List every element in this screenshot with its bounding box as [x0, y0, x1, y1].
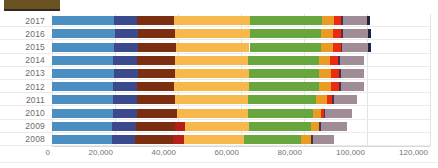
bar-segment[interactable]	[138, 43, 176, 52]
row-separator	[0, 119, 430, 120]
bar-segment[interactable]	[112, 135, 135, 144]
bar-segment[interactable]	[301, 135, 311, 144]
bar-segment[interactable]	[316, 95, 327, 104]
bar-segment[interactable]	[177, 109, 248, 118]
bar-segment[interactable]	[112, 122, 136, 131]
bar-segment[interactable]	[342, 43, 368, 52]
bar-segment[interactable]	[244, 135, 301, 144]
bar-segment[interactable]	[114, 69, 138, 78]
bar-segment[interactable]	[311, 122, 319, 131]
bar-segment[interactable]	[113, 95, 137, 104]
bar-row[interactable]	[52, 109, 430, 118]
stacked-bar-chart: 2017201620152014201320122011201020092008…	[0, 0, 438, 168]
bar-segment[interactable]	[248, 95, 316, 104]
x-axis-labels: 020,00040,00060,00080,000100,000120,000	[0, 148, 438, 162]
bar-segment[interactable]	[52, 109, 113, 118]
bar-segment[interactable]	[52, 135, 112, 144]
bar-row[interactable]	[52, 56, 430, 65]
x-gridline	[430, 14, 431, 146]
bar-segment[interactable]	[313, 109, 321, 118]
bar-segment[interactable]	[113, 82, 136, 91]
plot-area	[52, 14, 430, 146]
bar-segment[interactable]	[135, 135, 173, 144]
bar-segment[interactable]	[114, 16, 137, 25]
bar-row[interactable]	[52, 122, 430, 131]
bar-row[interactable]	[52, 16, 430, 25]
bar-segment[interactable]	[250, 16, 322, 25]
bar-segment[interactable]	[137, 95, 175, 104]
bar-segment[interactable]	[175, 69, 248, 78]
bar-segment[interactable]	[250, 43, 321, 52]
bar-segment[interactable]	[52, 56, 113, 65]
bar-segment[interactable]	[340, 56, 364, 65]
bar-segment[interactable]	[137, 82, 174, 91]
x-axis-line	[52, 146, 430, 147]
bar-segment[interactable]	[333, 29, 341, 38]
bar-segment[interactable]	[113, 109, 137, 118]
bar-segment[interactable]	[319, 82, 331, 91]
bar-segment[interactable]	[321, 122, 347, 131]
bar-segment[interactable]	[176, 43, 250, 52]
bar-row[interactable]	[52, 43, 430, 52]
bar-segment[interactable]	[137, 16, 174, 25]
bar-segment[interactable]	[341, 69, 364, 78]
y-tick-label: 2014	[1, 55, 45, 65]
bar-row[interactable]	[52, 82, 430, 91]
bar-segment[interactable]	[52, 43, 114, 52]
bar-segment[interactable]	[113, 56, 137, 65]
bar-segment[interactable]	[249, 69, 320, 78]
bar-segment[interactable]	[368, 29, 371, 38]
bar-segment[interactable]	[343, 29, 368, 38]
bar-segment[interactable]	[249, 82, 319, 91]
bar-segment[interactable]	[115, 29, 138, 38]
x-tick-label: 60,000	[179, 148, 239, 157]
bar-segment[interactable]	[313, 135, 334, 144]
bar-segment[interactable]	[249, 122, 311, 131]
bar-segment[interactable]	[52, 16, 114, 25]
bar-segment[interactable]	[175, 95, 248, 104]
bar-segment[interactable]	[174, 16, 250, 25]
bar-segment[interactable]	[175, 29, 251, 38]
bar-segment[interactable]	[174, 82, 249, 91]
bar-row[interactable]	[52, 95, 430, 104]
bar-segment[interactable]	[322, 16, 334, 25]
bar-segment[interactable]	[137, 109, 177, 118]
bar-segment[interactable]	[334, 95, 357, 104]
y-tick-label: 2017	[1, 16, 45, 26]
bar-segment[interactable]	[319, 56, 330, 65]
bar-segment[interactable]	[368, 43, 371, 52]
bar-segment[interactable]	[52, 82, 113, 91]
bar-segment[interactable]	[185, 122, 249, 131]
bar-segment[interactable]	[138, 69, 175, 78]
bar-segment[interactable]	[331, 82, 339, 91]
bar-segment[interactable]	[250, 29, 321, 38]
bar-segment[interactable]	[175, 122, 184, 131]
bar-segment[interactable]	[248, 109, 314, 118]
bar-segment[interactable]	[331, 69, 339, 78]
bar-segment[interactable]	[325, 109, 352, 118]
bar-segment[interactable]	[138, 29, 175, 38]
bar-segment[interactable]	[184, 135, 244, 144]
bar-segment[interactable]	[248, 56, 319, 65]
bar-segment[interactable]	[136, 122, 175, 131]
bar-segment[interactable]	[52, 95, 113, 104]
bar-segment[interactable]	[52, 29, 115, 38]
bar-segment[interactable]	[321, 29, 333, 38]
bar-segment[interactable]	[341, 82, 364, 91]
bar-segment[interactable]	[343, 16, 367, 25]
bar-segment[interactable]	[321, 43, 333, 52]
bar-segment[interactable]	[114, 43, 138, 52]
bar-segment[interactable]	[52, 69, 114, 78]
bar-segment[interactable]	[137, 56, 174, 65]
bar-row[interactable]	[52, 135, 430, 144]
bar-segment[interactable]	[330, 56, 338, 65]
bar-row[interactable]	[52, 29, 430, 38]
bar-row[interactable]	[52, 69, 430, 78]
bar-segment[interactable]	[367, 16, 369, 25]
bar-segment[interactable]	[334, 16, 342, 25]
bar-segment[interactable]	[319, 69, 331, 78]
bar-segment[interactable]	[173, 135, 184, 144]
bar-segment[interactable]	[52, 122, 112, 131]
bar-segment[interactable]	[175, 56, 248, 65]
bar-segment[interactable]	[333, 43, 341, 52]
